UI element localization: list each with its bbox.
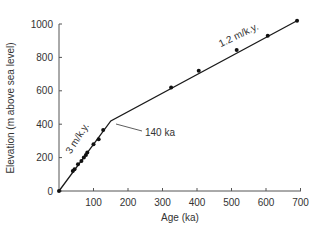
- y-tick-label: 200: [36, 152, 53, 163]
- data-point: [92, 142, 96, 146]
- y-tick-label: 0: [47, 186, 53, 197]
- break-label: 140 ka: [145, 127, 175, 138]
- y-tick-label: 800: [36, 52, 53, 63]
- x-tick-label: 600: [258, 197, 275, 208]
- data-points: [57, 19, 299, 193]
- y-tick-label: 400: [36, 119, 53, 130]
- break-leader-line: [116, 124, 142, 131]
- x-tick-label: 400: [189, 197, 206, 208]
- data-point: [57, 189, 61, 193]
- data-point: [73, 167, 77, 171]
- data-point: [169, 85, 173, 89]
- data-point: [85, 151, 89, 155]
- x-tick-label: 200: [120, 197, 137, 208]
- data-point: [197, 69, 201, 73]
- rate-label-lower: 3 m/k.y.: [63, 121, 91, 156]
- x-tick-label: 300: [154, 197, 171, 208]
- x-tick-label: 100: [85, 197, 102, 208]
- y-tick-label: 1000: [31, 19, 54, 30]
- data-point: [101, 128, 105, 132]
- x-tick-label: 500: [223, 197, 240, 208]
- axes: 02004006008001000 100200300400500600700: [31, 19, 310, 209]
- x-axis-label: Age (ka): [161, 212, 199, 223]
- data-point: [235, 48, 239, 52]
- data-point: [295, 19, 299, 23]
- data-point: [97, 137, 101, 141]
- data-point: [266, 34, 270, 38]
- rate-label-upper: 1.2 m/k.y.: [217, 21, 260, 50]
- elevation-age-chart: 02004006008001000 100200300400500600700 …: [0, 0, 317, 234]
- y-ticks: 02004006008001000: [31, 19, 62, 197]
- x-tick-label: 700: [292, 197, 309, 208]
- uplift-rate-line: [59, 21, 297, 191]
- data-point: [76, 162, 80, 166]
- y-axis-label: Elevation (m above sea level): [5, 42, 16, 173]
- y-tick-label: 600: [36, 85, 53, 96]
- data-point: [79, 159, 83, 163]
